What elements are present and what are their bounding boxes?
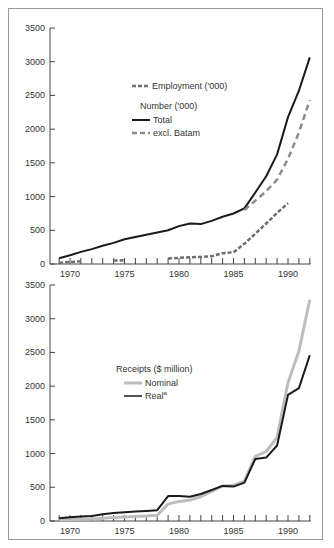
- top-legend: Employment ('000) Number ('000) Total ex…: [132, 81, 227, 138]
- legend-employment-label: Employment ('000): [152, 81, 227, 91]
- legend-real-label: Reala: [145, 390, 168, 401]
- legend-receipts-heading: Receipts ($ million): [116, 364, 193, 374]
- bottom-legend: Receipts ($ million) Nominal Reala: [116, 364, 193, 401]
- legend-total-label: Total: [153, 115, 172, 125]
- legends-layer: Employment ('000) Number ('000) Total ex…: [0, 0, 334, 548]
- legend-number-heading: Number ('000): [140, 101, 197, 111]
- legend-nominal-label: Nominal: [145, 378, 178, 388]
- legend-excl-batam-label: excl. Batam: [153, 128, 200, 138]
